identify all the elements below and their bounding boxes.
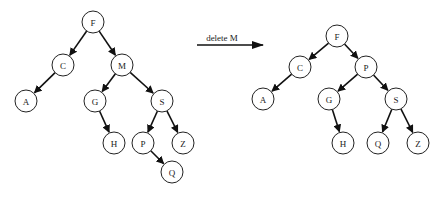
- node-label: F: [90, 18, 95, 28]
- edge-F-P: [345, 44, 358, 58]
- edge-P-S: [374, 75, 388, 90]
- node-A: A: [252, 88, 274, 110]
- edge-F-C: [70, 31, 87, 55]
- node-label: C: [60, 61, 66, 71]
- tree-deletion-diagram: FCMAGSHPZQ delete M FCPAGSHQZ: [0, 0, 443, 200]
- node-label: P: [363, 63, 368, 73]
- node-S: S: [385, 88, 407, 110]
- edge-P-Q: [151, 151, 164, 164]
- node-label: S: [159, 97, 164, 107]
- node-label: H: [111, 139, 118, 149]
- edge-F-M: [99, 31, 115, 55]
- node-Q: Q: [367, 132, 389, 154]
- node-S: S: [151, 90, 173, 112]
- node-label: F: [334, 32, 339, 42]
- node-F: F: [82, 11, 104, 33]
- node-H: H: [103, 132, 125, 154]
- node-Z: Z: [172, 132, 194, 154]
- node-P: P: [355, 56, 377, 78]
- node-label: M: [118, 61, 126, 71]
- node-label: H: [340, 139, 347, 149]
- edge-S-Q: [383, 109, 392, 132]
- node-label: G: [92, 97, 99, 107]
- edge-C-A: [35, 73, 56, 93]
- node-label: S: [393, 95, 398, 105]
- node-G: G: [84, 90, 106, 112]
- edge-M-G: [102, 74, 115, 92]
- node-label: C: [297, 63, 303, 73]
- node-label: Z: [180, 139, 186, 149]
- node-P: P: [132, 132, 154, 154]
- node-label: Q: [375, 139, 382, 149]
- node-C: C: [289, 56, 311, 78]
- node-C: C: [52, 54, 74, 76]
- operation-label: delete M: [206, 33, 238, 43]
- edge-S-Z: [401, 109, 413, 132]
- node-label: P: [140, 139, 145, 149]
- node-A: A: [15, 90, 37, 112]
- node-Q: Q: [161, 161, 183, 183]
- node-H: H: [332, 132, 354, 154]
- node-F: F: [326, 25, 348, 47]
- node-G: G: [318, 88, 340, 110]
- node-label: A: [260, 95, 267, 105]
- node-label: Q: [169, 168, 176, 178]
- delete-operation: delete M: [197, 33, 263, 45]
- node-M: M: [111, 54, 133, 76]
- node-label: A: [23, 97, 30, 107]
- edge-C-A: [272, 74, 292, 91]
- edge-G-H: [100, 111, 110, 132]
- tree-after: FCPAGSHQZ: [252, 25, 429, 154]
- node-Z: Z: [407, 132, 429, 154]
- node-label: G: [326, 95, 333, 105]
- tree-before: FCMAGSHPZQ: [15, 11, 194, 183]
- edge-S-P: [148, 111, 158, 132]
- edge-S-Z: [167, 111, 178, 132]
- node-label: Z: [415, 139, 421, 149]
- edge-F-C: [309, 43, 328, 59]
- edge-P-G: [338, 74, 358, 91]
- edge-G-H: [332, 109, 339, 131]
- edge-M-S: [130, 72, 153, 93]
